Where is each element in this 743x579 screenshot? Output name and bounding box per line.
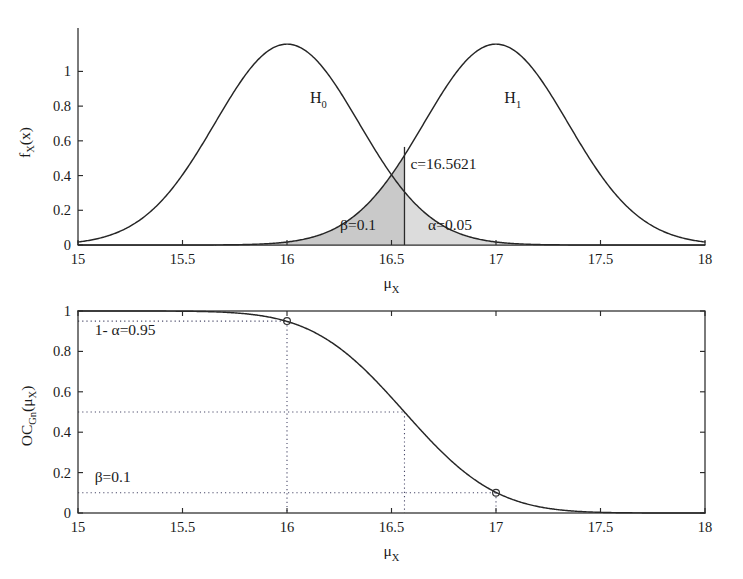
y-tick-label: 0.4 <box>53 168 72 184</box>
oc-labels: 1515.51616.51717.51800.20.40.60.81OCGn(μ… <box>18 303 712 563</box>
y-tick-label: 0.4 <box>53 424 72 440</box>
x-tick-label: 16 <box>280 251 295 267</box>
x-tick-label: 16.5 <box>379 519 404 535</box>
x-tick-label: 17.5 <box>588 251 613 267</box>
oc-guide-lines <box>78 321 496 513</box>
hypothesis-label-h1: H1 <box>504 89 521 110</box>
svg-text:OCGn(μX): OCGn(μX) <box>18 386 38 447</box>
oc-frame <box>78 311 705 513</box>
y-tick-label: 0.6 <box>53 384 71 400</box>
y-tick-label: 0 <box>64 505 71 521</box>
y-tick-label: 0.2 <box>53 202 71 218</box>
x-tick-label: 15 <box>71 251 86 267</box>
x-tick-label: 16 <box>280 519 295 535</box>
y-tick-label: 0 <box>64 237 71 253</box>
x-tick-label: 17 <box>489 519 504 535</box>
pdf-labels: 1515.51616.51717.51800.20.40.60.81fX(x)μ… <box>16 63 712 295</box>
x-tick-label: 15 <box>71 519 86 535</box>
y-tick-label: 0.8 <box>53 98 71 114</box>
x-axis-title: μX <box>384 542 400 563</box>
x-tick-label: 18 <box>698 251 713 267</box>
pdf-panel-svg: 1515.51616.51717.51800.20.40.60.81fX(x)μ… <box>0 0 743 290</box>
oc-annotation-beta: β=0.1 <box>95 468 131 485</box>
y-axis-title: OCGn(μX) <box>18 386 38 447</box>
region-label-beta: β=0.1 <box>340 216 376 233</box>
pdf-panel: 1515.51616.51717.51800.20.40.60.81fX(x)μ… <box>0 0 743 290</box>
y-tick-label: 0.6 <box>53 133 71 149</box>
x-tick-label: 15.5 <box>170 251 195 267</box>
oc-annotation-one-minus-alpha: 1- α=0.95 <box>95 321 156 338</box>
x-tick-label: 18 <box>698 519 713 535</box>
oc-panel: 1515.51616.51717.51800.20.40.60.81OCGn(μ… <box>0 290 743 579</box>
y-axis-title: fX(x) <box>16 127 36 158</box>
y-tick-label: 1 <box>64 63 71 79</box>
svg-text:fX(x): fX(x) <box>16 127 36 158</box>
x-tick-label: 17.5 <box>588 519 613 535</box>
x-tick-label: 16.5 <box>379 251 404 267</box>
oc-curve <box>78 311 705 513</box>
region-label-alpha: α=0.05 <box>428 216 472 233</box>
figure-root: 1515.51616.51717.51800.20.40.60.81fX(x)μ… <box>0 0 743 579</box>
critical-value-label: c=16.5621 <box>410 155 476 172</box>
oc-plot-box <box>78 311 705 513</box>
y-tick-label: 0.8 <box>53 343 71 359</box>
x-tick-label: 17 <box>489 251 504 267</box>
y-tick-label: 0.2 <box>53 465 71 481</box>
shaded-regions <box>78 155 705 245</box>
y-tick-label: 1 <box>64 303 71 319</box>
x-tick-label: 15.5 <box>170 519 195 535</box>
oc-panel-svg: 1515.51616.51717.51800.20.40.60.81OCGn(μ… <box>0 290 743 579</box>
oc-curve-group <box>78 311 705 513</box>
hypothesis-label-h0: H0 <box>310 89 327 110</box>
